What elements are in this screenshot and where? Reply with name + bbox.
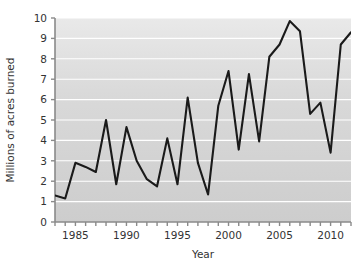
x-tick-label: 2005 bbox=[266, 229, 293, 241]
x-tick-label: 1990 bbox=[113, 229, 140, 241]
y-axis-title: Millions of acres burned bbox=[4, 58, 16, 183]
x-tick-label: 1995 bbox=[164, 229, 191, 241]
x-axis-title: Year bbox=[191, 248, 215, 260]
y-tick-label: 2 bbox=[40, 175, 47, 187]
y-tick-label: 4 bbox=[40, 134, 47, 146]
y-tick-label: 5 bbox=[40, 114, 47, 126]
line-chart: 012345678910 198519901995200020052010 Ye… bbox=[0, 0, 364, 268]
x-tick-label: 1985 bbox=[62, 229, 89, 241]
y-tick-label: 10 bbox=[34, 12, 47, 24]
y-tick-label: 3 bbox=[40, 155, 47, 167]
x-tick-label: 2000 bbox=[215, 229, 242, 241]
y-tick-label: 7 bbox=[40, 73, 47, 85]
x-axis-tick-labels: 198519901995200020052010 bbox=[62, 229, 344, 241]
y-tick-label: 0 bbox=[40, 216, 47, 228]
y-tick-label: 8 bbox=[40, 53, 47, 65]
x-tick-label: 2010 bbox=[317, 229, 344, 241]
y-tick-label: 1 bbox=[40, 195, 47, 207]
y-axis-tick-labels: 012345678910 bbox=[34, 12, 48, 228]
y-tick-label: 9 bbox=[40, 32, 47, 44]
y-tick-label: 6 bbox=[40, 93, 47, 105]
chart-canvas: 012345678910 198519901995200020052010 Ye… bbox=[0, 0, 364, 268]
